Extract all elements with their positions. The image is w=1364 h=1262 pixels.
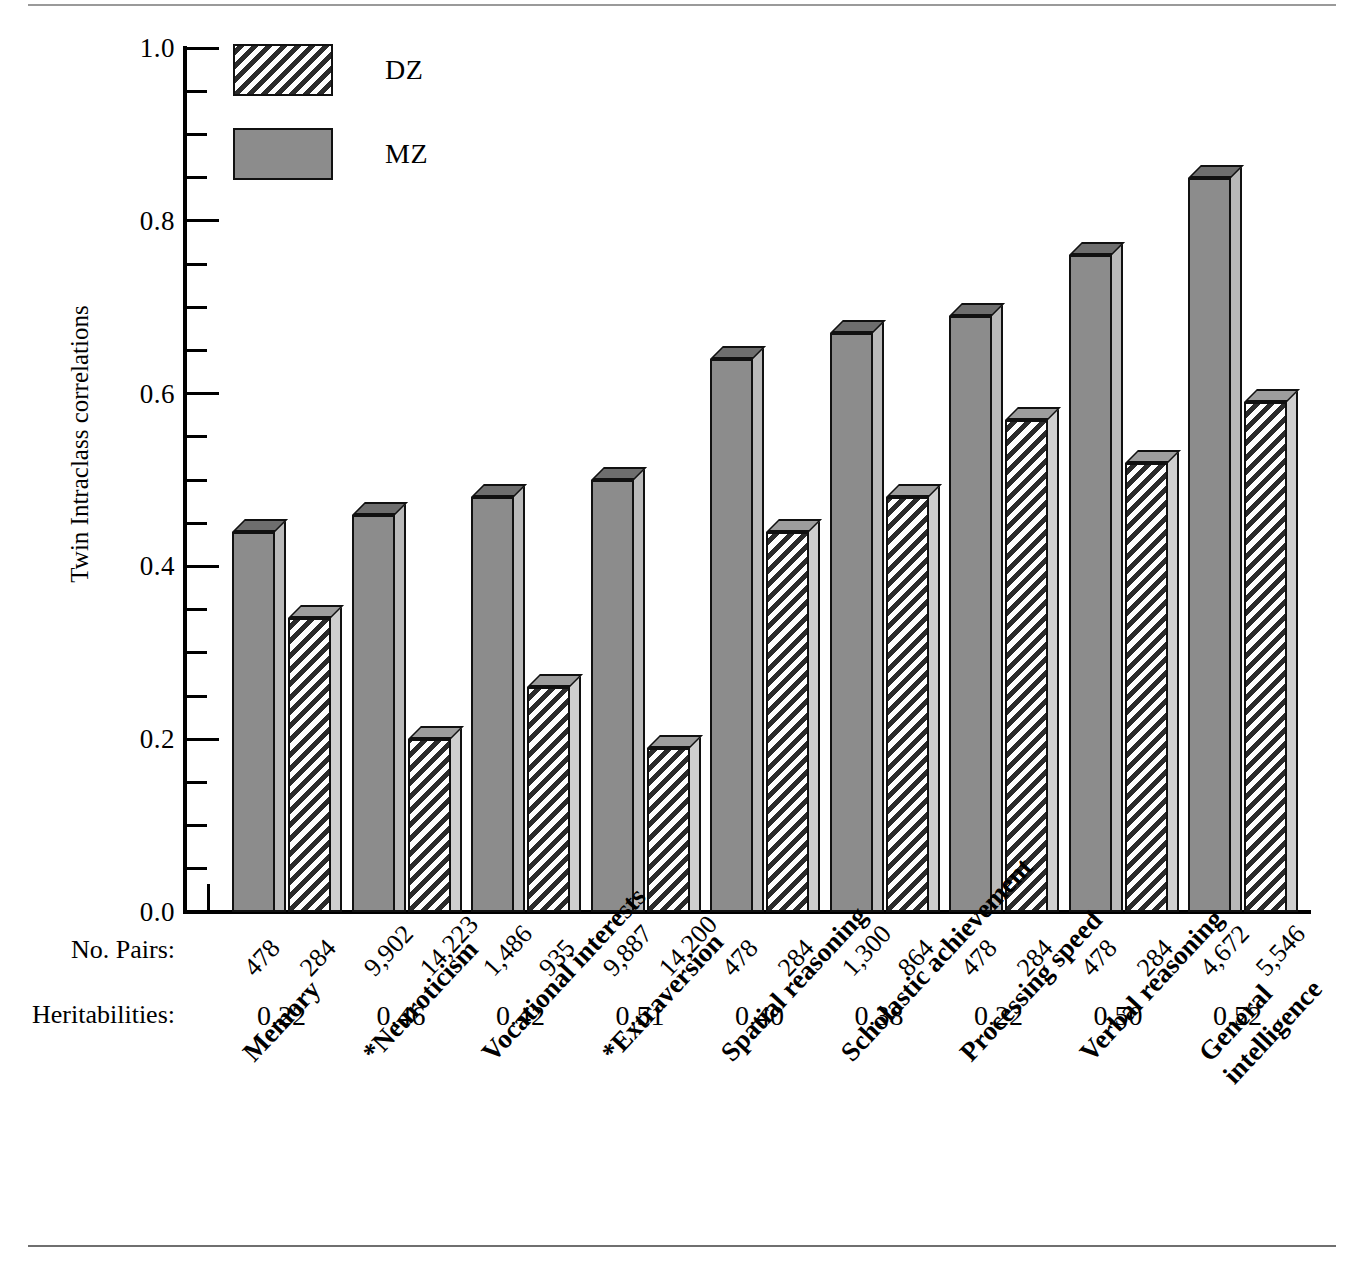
y-tick-minor xyxy=(185,479,207,482)
legend-swatch-mz-icon xyxy=(233,128,333,180)
bar-front-face xyxy=(1244,402,1287,912)
y-tick-minor xyxy=(185,651,207,654)
y-tick-major xyxy=(185,565,219,568)
bar-front-face xyxy=(471,497,514,912)
y-tick-major xyxy=(185,392,219,395)
bar-front-face xyxy=(830,333,873,912)
bar-mz-7[interactable] xyxy=(1069,255,1112,912)
legend-entry-mz[interactable]: MZ xyxy=(233,128,428,180)
y-tick-label: 0.8 xyxy=(115,205,175,236)
bar-mz-3[interactable] xyxy=(591,480,634,912)
bar-front-face xyxy=(1125,463,1168,912)
y-tick-major xyxy=(185,911,219,914)
bar-dz-8[interactable] xyxy=(1244,402,1287,912)
bar-front-face xyxy=(647,748,690,912)
bar-front-face xyxy=(886,497,929,912)
bar-dz-2[interactable] xyxy=(527,687,570,912)
y-tick-minor xyxy=(185,306,207,309)
y-axis-label: Twin Intraclass correlations xyxy=(66,294,94,594)
bar-front-face xyxy=(591,480,634,912)
x-tick xyxy=(207,884,210,912)
pairs-row-title: No. Pairs: xyxy=(0,935,175,965)
bar-dz-7[interactable] xyxy=(1125,463,1168,912)
pairs-value-mz-1: 9,902 xyxy=(358,919,420,982)
legend-label-dz: DZ xyxy=(385,54,423,86)
legend-entry-dz[interactable]: DZ xyxy=(233,44,423,96)
bar-dz-3[interactable] xyxy=(647,748,690,912)
bar-dz-4[interactable] xyxy=(766,532,809,912)
bar-mz-5[interactable] xyxy=(830,333,873,912)
bar-mz-6[interactable] xyxy=(949,316,992,912)
y-tick-minor xyxy=(185,349,207,352)
y-tick-major xyxy=(185,47,219,50)
bar-front-face xyxy=(527,687,570,912)
bar-front-face xyxy=(1069,255,1112,912)
y-tick-minor xyxy=(185,867,207,870)
bar-front-face xyxy=(232,532,275,912)
y-tick-label: 1.0 xyxy=(115,33,175,64)
bar-chart: Twin Intraclass correlations 0.00.20.40.… xyxy=(0,0,1364,1262)
y-tick-major xyxy=(185,738,219,741)
bar-front-face xyxy=(1188,178,1231,912)
bar-front-face xyxy=(288,618,331,912)
bar-dz-1[interactable] xyxy=(408,739,451,912)
bar-dz-0[interactable] xyxy=(288,618,331,912)
y-tick-major xyxy=(185,219,219,222)
y-tick-label: 0.6 xyxy=(115,378,175,409)
bar-dz-5[interactable] xyxy=(886,497,929,912)
bar-front-face xyxy=(408,739,451,912)
bar-front-face xyxy=(1005,420,1048,912)
y-tick-minor xyxy=(185,695,207,698)
bar-mz-4[interactable] xyxy=(710,359,753,912)
y-tick-minor xyxy=(185,90,207,93)
bar-front-face xyxy=(710,359,753,912)
y-tick-minor xyxy=(185,435,207,438)
pairs-value-mz-2: 1,486 xyxy=(477,919,539,982)
bar-front-face xyxy=(352,515,395,912)
y-tick-minor xyxy=(185,781,207,784)
y-tick-minor xyxy=(185,263,207,266)
bar-front-face xyxy=(766,532,809,912)
y-tick-minor xyxy=(185,522,207,525)
y-tick-label: 0.2 xyxy=(115,724,175,755)
bar-mz-1[interactable] xyxy=(352,515,395,912)
heritabilities-row-title: Heritabilities: xyxy=(0,1000,175,1030)
legend-swatch-dz-icon xyxy=(233,44,333,96)
legend-label-mz: MZ xyxy=(385,138,428,170)
bar-dz-6[interactable] xyxy=(1005,420,1048,912)
y-tick-label: 0.4 xyxy=(115,551,175,582)
y-tick-label: 0.0 xyxy=(115,897,175,928)
category-label-line: Memory xyxy=(237,974,326,1067)
y-tick-minor xyxy=(185,176,207,179)
bar-mz-8[interactable] xyxy=(1188,178,1231,912)
pairs-value-mz-0: 478 xyxy=(238,933,287,982)
y-tick-minor xyxy=(185,608,207,611)
bar-mz-0[interactable] xyxy=(232,532,275,912)
y-tick-minor xyxy=(185,824,207,827)
pairs-value-mz-4: 478 xyxy=(716,933,765,982)
bar-mz-2[interactable] xyxy=(471,497,514,912)
category-label-0[interactable]: Memory xyxy=(236,974,328,1069)
bar-front-face xyxy=(949,316,992,912)
y-tick-minor xyxy=(185,133,207,136)
